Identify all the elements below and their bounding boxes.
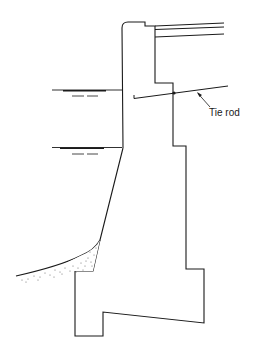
- deck-lines: [155, 23, 224, 37]
- tie-rod-leader: [197, 92, 210, 107]
- tie-rod-label: Tie rod: [209, 107, 240, 118]
- seabed-soil: [16, 240, 100, 283]
- wall-outline: [75, 22, 204, 336]
- low-water-level: [52, 148, 122, 155]
- tie-rod: [134, 86, 228, 99]
- high-water-level: [52, 90, 122, 96]
- diagram-canvas: Tie rod: [0, 0, 254, 357]
- retaining-wall-diagram: [0, 0, 254, 357]
